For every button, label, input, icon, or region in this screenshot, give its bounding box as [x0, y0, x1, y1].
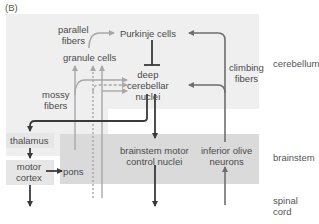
- inferior-olive-neurons-label: inferior olive neurons: [201, 145, 252, 167]
- spinal-cord-region-label: spinal cord: [273, 195, 298, 217]
- brainstem-motor-control-nuclei-label: brainstem motor control nuclei: [120, 145, 189, 167]
- panel-label: (B): [5, 2, 18, 13]
- purkinje-cells-label: Purkinje cells: [120, 28, 176, 39]
- granule-cells-label: granule cells: [63, 52, 116, 63]
- climbing-fibers-label: climbing fibers: [229, 62, 264, 84]
- mossy-fibers-label: mossy fibers: [42, 89, 69, 111]
- deep-cerebellar-nuclei-label: deep cerebellar nuclei: [127, 69, 169, 102]
- cerebellum-region-label: cerebellum: [273, 58, 319, 69]
- pons-label: pons: [63, 166, 84, 177]
- parallel-fibers-label: parallel fibers: [58, 24, 89, 46]
- motor-cortex-label: motor cortex: [16, 161, 42, 183]
- brainstem-region-label: brainstem: [273, 152, 315, 163]
- thalamus-label: thalamus: [10, 135, 49, 146]
